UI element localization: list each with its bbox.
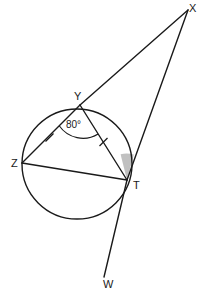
- segment-TW: [104, 180, 127, 277]
- geometry-diagram: 80° X Y Z T W: [0, 0, 202, 294]
- segment-XY: [80, 10, 188, 105]
- vertex-label-Z: Z: [11, 157, 18, 169]
- vertex-label-W: W: [103, 278, 114, 290]
- angle-label-80-degrees: 80°: [66, 119, 81, 130]
- segment-ZT: [22, 163, 127, 180]
- vertex-label-Y: Y: [74, 90, 82, 102]
- geometry-figure: 80° X Y Z T W: [0, 0, 202, 294]
- vertex-label-X: X: [189, 2, 197, 14]
- vertex-label-T: T: [133, 179, 140, 191]
- segment-XT: [127, 10, 188, 180]
